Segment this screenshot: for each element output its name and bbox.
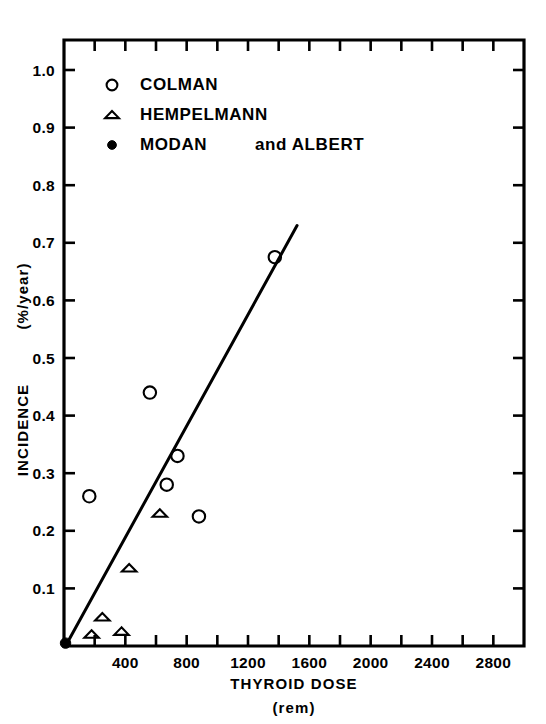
- data-point: [144, 386, 156, 398]
- trend-line-group: [66, 226, 298, 646]
- data-point: [122, 564, 137, 572]
- series-colman: [83, 251, 281, 523]
- x-axis-title: THYROID DOSE: [230, 675, 357, 692]
- y-tick-label: 1.0: [33, 62, 55, 79]
- legend-marker-colman: [107, 80, 118, 91]
- left-axis-ticks: [64, 70, 75, 588]
- legend-label-albert: and ALBERT: [255, 135, 364, 154]
- y-axis-title: INCIDENCE: [14, 384, 31, 476]
- legend-label-modan: MODAN: [140, 135, 207, 154]
- plot-frame: [64, 40, 524, 646]
- data-point: [153, 509, 168, 517]
- x-tick-label: 1200: [230, 654, 266, 671]
- trend-line: [66, 226, 298, 646]
- bottom-axis-ticks: [95, 635, 494, 646]
- y-tick-label: 0.2: [33, 522, 55, 539]
- legend: COLMANHEMPELMANNMODANand ALBERT: [105, 75, 364, 154]
- frame-border: [64, 40, 524, 646]
- y-tick-label: 0.6: [33, 292, 56, 309]
- x-tick-labels: 40080012001600200024002800: [112, 654, 511, 671]
- data-point: [83, 490, 95, 502]
- legend-label-colman: COLMAN: [140, 75, 218, 94]
- y-tick-labels: 0.10.20.30.40.50.60.70.80.91.0: [33, 62, 56, 597]
- y-tick-label: 0.4: [33, 407, 56, 424]
- series-modan: [60, 638, 70, 648]
- data-point: [171, 450, 183, 462]
- y-tick-label: 0.3: [33, 465, 56, 482]
- right-axis-ticks: [513, 70, 524, 588]
- top-axis-ticks: [95, 40, 494, 51]
- y-tick-label: 0.8: [33, 177, 56, 194]
- data-point: [60, 638, 70, 648]
- print-speck: [111, 144, 114, 147]
- data-point: [84, 630, 99, 638]
- x-tick-label: 2800: [475, 654, 511, 671]
- y-tick-label: 0.1: [33, 580, 56, 597]
- scatter-chart-figure: 40080012001600200024002800 0.10.20.30.40…: [0, 0, 546, 724]
- data-points-group: [60, 251, 281, 648]
- data-point: [114, 627, 129, 635]
- x-tick-label: 800: [173, 654, 200, 671]
- x-axis-units: (rem): [272, 699, 315, 716]
- data-point: [95, 613, 110, 621]
- data-point: [161, 479, 173, 491]
- y-axis-units: (%/year): [14, 262, 31, 329]
- legend-label-hempelmann: HEMPELMANN: [140, 105, 268, 124]
- y-tick-label: 0.5: [33, 350, 56, 367]
- x-tick-label: 400: [112, 654, 139, 671]
- x-tick-label: 2000: [353, 654, 389, 671]
- data-point: [193, 510, 205, 522]
- y-tick-label: 0.7: [33, 234, 55, 251]
- legend-marker-hempelmann: [105, 111, 119, 118]
- y-tick-label: 0.9: [33, 119, 56, 136]
- chart-svg: 40080012001600200024002800 0.10.20.30.40…: [0, 0, 546, 724]
- x-tick-label: 2400: [414, 654, 450, 671]
- x-tick-label: 1600: [291, 654, 327, 671]
- series-hempelmann: [84, 509, 167, 637]
